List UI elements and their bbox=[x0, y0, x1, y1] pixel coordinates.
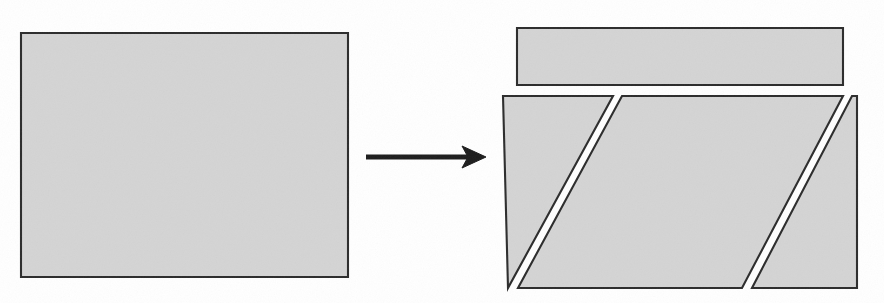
figure-canvas bbox=[0, 0, 884, 303]
figure-root bbox=[0, 0, 884, 303]
scan-grain-overlay bbox=[0, 0, 884, 303]
